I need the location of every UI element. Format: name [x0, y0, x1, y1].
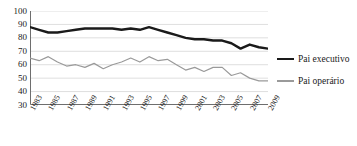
legend-item-label: Pai executivo	[298, 54, 349, 64]
x-axis-tick-label: 1985	[47, 94, 62, 112]
x-axis-tick-label: 2005	[230, 94, 245, 112]
x-axis-tick-label: 2007	[249, 94, 264, 112]
legend-swatch-line-icon	[277, 80, 294, 81]
x-axis-tick-label: 1991	[102, 94, 117, 112]
x-axis-tick-label: 2003	[212, 94, 227, 112]
x-axis-tick-label: 1997	[157, 94, 172, 112]
x-axis-tick-label: 1995	[139, 94, 154, 112]
legend-swatch-line-icon	[277, 58, 294, 60]
x-axis-tick-label: 1987	[66, 94, 81, 112]
legend-item-label: Pai operário	[298, 76, 344, 86]
x-axis-tick-label: 1983	[29, 94, 44, 112]
legend-item-pai-operario: Pai operário	[277, 70, 357, 92]
chart-legend: Pai executivo Pai operário	[277, 48, 357, 92]
x-axis-tick-label: 1989	[84, 94, 99, 112]
x-axis-tick-label: 1993	[121, 94, 136, 112]
legend-item-pai-executivo: Pai executivo	[277, 48, 357, 70]
x-axis-tick-label: 1999	[175, 94, 190, 112]
line-chart: 30405060708090100 1983198519871989199119…	[0, 0, 357, 146]
x-axis-tick-label: 2009	[267, 94, 282, 112]
x-axis-tick-label: 2001	[194, 94, 209, 112]
